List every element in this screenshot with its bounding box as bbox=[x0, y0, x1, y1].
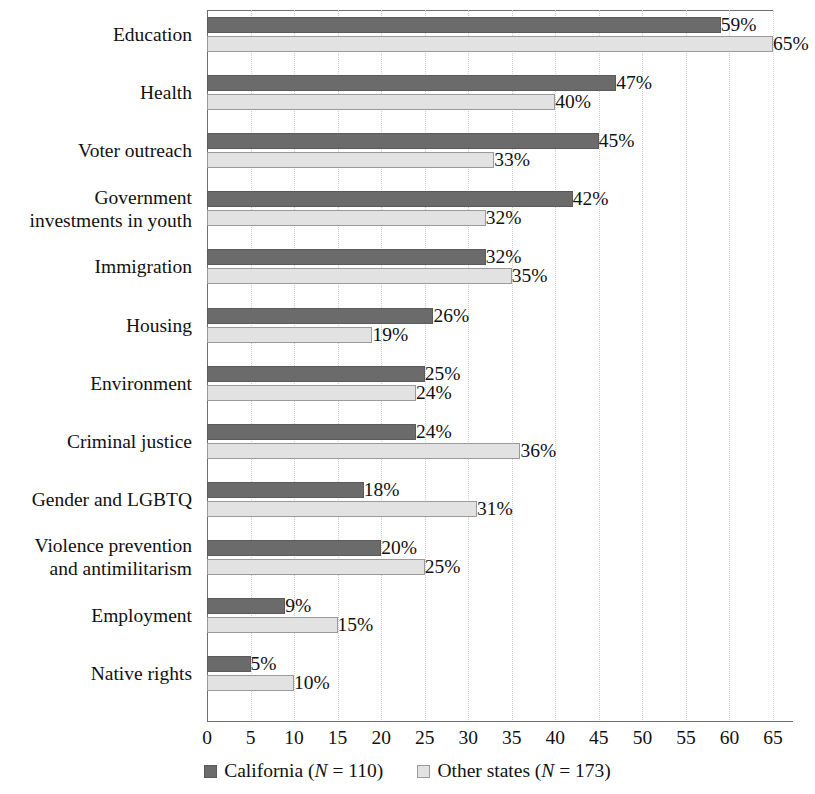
x-tick-50: 50 bbox=[633, 726, 653, 750]
plot-area: 59%65%47%40%45%33%42%32%32%35%26%19%25%2… bbox=[207, 10, 793, 722]
bar-other-states: 31% bbox=[207, 501, 477, 517]
category-label: Health bbox=[0, 81, 192, 104]
bar-value-label: 47% bbox=[616, 73, 652, 93]
bar-value-label: 9% bbox=[285, 596, 311, 616]
bar-value-label: 26% bbox=[433, 306, 469, 326]
bar-group: 47%40% bbox=[207, 75, 793, 111]
x-axis-line bbox=[207, 721, 793, 722]
bar-value-label: 20% bbox=[381, 538, 417, 558]
legend-label-other-states: Other states (N = 173) bbox=[437, 760, 610, 782]
legend-swatch-california bbox=[204, 765, 217, 778]
category-label: Immigration bbox=[0, 255, 192, 278]
x-tick-25: 25 bbox=[415, 726, 435, 750]
bar-other-states: 19% bbox=[207, 327, 372, 343]
x-tick-60: 60 bbox=[720, 726, 740, 750]
bar-value-label: 25% bbox=[425, 364, 461, 384]
bar-group: 5%10% bbox=[207, 656, 793, 692]
category-label: Gender and LGBTQ bbox=[0, 488, 192, 511]
x-tick-0: 0 bbox=[202, 726, 212, 750]
bar-group: 24%36% bbox=[207, 424, 793, 460]
category-label: Education bbox=[0, 23, 192, 46]
plot-top-border bbox=[207, 10, 773, 11]
bar-other-states: 10% bbox=[207, 675, 294, 691]
bar-value-label: 18% bbox=[364, 480, 400, 500]
bar-value-label: 25% bbox=[425, 557, 461, 577]
x-tick-10: 10 bbox=[284, 726, 304, 750]
bar-value-label: 31% bbox=[477, 499, 513, 519]
category-label: Environment bbox=[0, 372, 192, 395]
horizontal-bar-chart: EducationHealthVoter outreachGovernment … bbox=[0, 0, 815, 794]
bar-value-label: 15% bbox=[338, 615, 374, 635]
bar-value-label: 42% bbox=[573, 189, 609, 209]
x-tick-30: 30 bbox=[458, 726, 478, 750]
bar-value-label: 24% bbox=[416, 422, 452, 442]
bar-group: 59%65% bbox=[207, 17, 793, 53]
bar-value-label: 32% bbox=[486, 208, 522, 228]
bar-value-label: 65% bbox=[773, 34, 809, 54]
chart-legend: California (N = 110) Other states (N = 1… bbox=[0, 760, 815, 782]
bar-california: 18% bbox=[207, 482, 364, 498]
x-axis-tick-labels: 05101520253035404550556065 bbox=[207, 726, 793, 756]
bar-other-states: 65% bbox=[207, 36, 773, 52]
bar-other-states: 40% bbox=[207, 94, 555, 110]
legend-swatch-other-states bbox=[417, 765, 430, 778]
x-tick-20: 20 bbox=[371, 726, 391, 750]
x-tick-65: 65 bbox=[763, 726, 783, 750]
bar-other-states: 35% bbox=[207, 268, 512, 284]
bar-value-label: 33% bbox=[494, 150, 530, 170]
x-tick-15: 15 bbox=[328, 726, 348, 750]
x-tick-5: 5 bbox=[246, 726, 256, 750]
bar-value-label: 32% bbox=[486, 247, 522, 267]
bar-california: 47% bbox=[207, 75, 616, 91]
bar-value-label: 45% bbox=[599, 131, 635, 151]
category-label: Government investments in youth bbox=[0, 186, 192, 232]
category-label: Violence prevention and antimilitarism bbox=[0, 534, 192, 580]
category-label: Housing bbox=[0, 314, 192, 337]
bar-group: 45%33% bbox=[207, 133, 793, 169]
category-label: Native rights bbox=[0, 662, 192, 685]
category-axis-labels: EducationHealthVoter outreachGovernment … bbox=[0, 0, 200, 722]
bar-other-states: 32% bbox=[207, 210, 486, 226]
bar-california: 9% bbox=[207, 598, 285, 614]
bar-other-states: 25% bbox=[207, 559, 425, 575]
bar-california: 25% bbox=[207, 366, 425, 382]
bar-california: 26% bbox=[207, 308, 433, 324]
bar-value-label: 19% bbox=[372, 325, 408, 345]
bar-group: 20%25% bbox=[207, 540, 793, 576]
bar-group: 26%19% bbox=[207, 308, 793, 344]
bar-other-states: 33% bbox=[207, 152, 494, 168]
x-tick-45: 45 bbox=[589, 726, 609, 750]
bar-group: 18%31% bbox=[207, 482, 793, 518]
bar-other-states: 36% bbox=[207, 443, 520, 459]
bar-other-states: 24% bbox=[207, 385, 416, 401]
bar-california: 32% bbox=[207, 249, 486, 265]
category-label: Employment bbox=[0, 604, 192, 627]
bar-other-states: 15% bbox=[207, 617, 338, 633]
bar-california: 24% bbox=[207, 424, 416, 440]
bar-value-label: 5% bbox=[251, 654, 277, 674]
x-tick-55: 55 bbox=[676, 726, 696, 750]
bar-group: 9%15% bbox=[207, 598, 793, 634]
bar-california: 20% bbox=[207, 540, 381, 556]
bar-california: 5% bbox=[207, 656, 251, 672]
bar-value-label: 35% bbox=[512, 266, 548, 286]
bar-california: 42% bbox=[207, 191, 573, 207]
bar-value-label: 10% bbox=[294, 673, 330, 693]
legend-label-california: California (N = 110) bbox=[224, 760, 383, 782]
bar-california: 45% bbox=[207, 133, 599, 149]
legend-item-other-states: Other states (N = 173) bbox=[417, 760, 610, 782]
bar-group: 25%24% bbox=[207, 366, 793, 402]
bar-value-label: 24% bbox=[416, 383, 452, 403]
bar-value-label: 36% bbox=[520, 441, 556, 461]
legend-item-california: California (N = 110) bbox=[204, 760, 383, 782]
bar-group: 32%35% bbox=[207, 249, 793, 285]
bar-value-label: 40% bbox=[555, 92, 591, 112]
category-label: Voter outreach bbox=[0, 139, 192, 162]
bar-group: 42%32% bbox=[207, 191, 793, 227]
category-label: Criminal justice bbox=[0, 430, 192, 453]
x-tick-35: 35 bbox=[502, 726, 522, 750]
x-tick-40: 40 bbox=[546, 726, 566, 750]
bar-california: 59% bbox=[207, 17, 721, 33]
bar-value-label: 59% bbox=[721, 15, 757, 35]
